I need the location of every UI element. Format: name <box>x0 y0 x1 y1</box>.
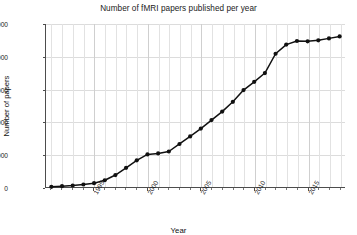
x-tick-minor <box>286 188 287 190</box>
x-tick-minor <box>136 188 137 190</box>
y-tick-mark <box>43 188 46 189</box>
x-tick-minor <box>233 188 234 190</box>
y-tick-mark <box>43 90 46 91</box>
data-point <box>81 182 85 186</box>
x-tick-minor <box>329 188 330 190</box>
x-tick-minor <box>318 188 319 190</box>
data-point <box>113 173 117 177</box>
data-point <box>316 38 320 42</box>
x-tick-minor <box>83 188 84 190</box>
y-tick-label: 0 <box>4 185 8 192</box>
x-tick-minor <box>190 188 191 190</box>
line-series <box>46 24 345 187</box>
data-point <box>156 151 160 155</box>
y-tick-label: 4,000 <box>0 53 8 60</box>
data-point <box>231 100 235 104</box>
x-axis-label: Year <box>0 226 357 235</box>
data-point <box>327 36 331 40</box>
x-tick-minor <box>61 188 62 190</box>
data-point <box>145 152 149 156</box>
y-tick-label: 2,000 <box>0 119 8 126</box>
data-point <box>263 71 267 75</box>
data-point <box>209 118 213 122</box>
data-point <box>241 88 245 92</box>
x-tick-minor <box>125 188 126 190</box>
y-tick-label: 3,000 <box>0 86 8 93</box>
x-tick-minor <box>50 188 51 190</box>
data-point <box>124 166 128 170</box>
x-tick-minor <box>275 188 276 190</box>
chart-title: Number of fMRI papers published per year <box>0 4 357 13</box>
x-tick-minor <box>72 188 73 190</box>
data-point <box>167 149 171 153</box>
x-tick-minor <box>243 188 244 190</box>
x-tick-minor <box>115 188 116 190</box>
y-tick-label: 5,000 <box>0 21 8 28</box>
data-point <box>252 80 256 84</box>
chart-figure: Number of fMRI papers published per year… <box>0 0 357 235</box>
data-point <box>273 52 277 56</box>
x-tick-minor <box>158 188 159 190</box>
data-point <box>199 127 203 131</box>
data-point <box>284 42 288 46</box>
y-tick-label: 1,000 <box>0 152 8 159</box>
x-tick-minor <box>340 188 341 190</box>
y-tick-mark <box>43 155 46 156</box>
x-tick-minor <box>265 188 266 190</box>
x-tick-minor <box>104 188 105 190</box>
data-point <box>135 158 139 162</box>
data-point <box>220 110 224 114</box>
y-tick-mark <box>43 24 46 25</box>
x-tick-minor <box>222 188 223 190</box>
x-tick-minor <box>297 188 298 190</box>
x-tick-minor <box>179 188 180 190</box>
data-point <box>177 142 181 146</box>
data-point <box>71 183 75 187</box>
y-tick-mark <box>43 122 46 123</box>
data-point <box>188 134 192 138</box>
x-tick-minor <box>211 188 212 190</box>
x-tick-minor <box>168 188 169 190</box>
data-point <box>306 39 310 43</box>
y-tick-mark <box>43 57 46 58</box>
data-point <box>338 34 342 38</box>
y-axis-label: Number of papers <box>2 76 11 137</box>
series-line <box>51 36 339 186</box>
data-point <box>295 39 299 43</box>
plot-area <box>45 24 345 188</box>
